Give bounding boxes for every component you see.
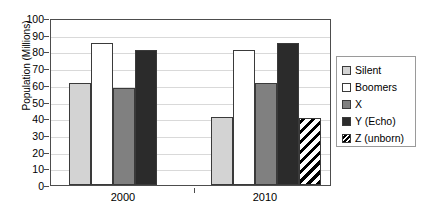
- bar-silent-2000: [69, 83, 91, 185]
- legend-label: Y (Echo): [355, 116, 396, 127]
- y-axis-tick-mark: [44, 136, 49, 137]
- bar-boomers-2000: [91, 43, 113, 185]
- y-axis-tick-label: 40: [4, 114, 44, 124]
- legend-label: Z (unborn): [355, 133, 404, 144]
- legend-item[interactable]: Silent: [342, 62, 415, 79]
- y-axis-tick-mark: [44, 52, 49, 53]
- gridline: [51, 37, 330, 38]
- bar-y-echo-2000: [135, 50, 157, 185]
- legend-swatch-icon: [342, 66, 351, 75]
- y-axis-tick-label: 60: [4, 81, 44, 91]
- y-axis-tick-label: 100: [4, 14, 44, 24]
- x-axis-separator-tick: [194, 188, 195, 193]
- y-axis-tick-mark: [44, 169, 49, 170]
- y-axis-tick-mark: [44, 69, 49, 70]
- legend-swatch-icon: [342, 100, 351, 109]
- y-axis-tick-mark: [44, 19, 49, 20]
- bar-silent-2010: [211, 117, 233, 185]
- y-axis-tick-label: 50: [4, 98, 44, 108]
- x-axis-tick-label: 2010: [235, 191, 295, 203]
- bar-y-echo-2010: [277, 43, 299, 185]
- y-axis-tick-labels: 1009080706050403020100: [0, 0, 44, 212]
- y-axis-tick-mark: [44, 86, 49, 87]
- plot-area: [50, 19, 331, 186]
- bar-x-2010: [255, 83, 277, 185]
- y-axis-tick-label: 10: [4, 164, 44, 174]
- legend-item[interactable]: X: [342, 96, 415, 113]
- y-axis-tick-label: 20: [4, 148, 44, 158]
- y-axis-tick-mark: [44, 103, 49, 104]
- legend: SilentBoomersXY (Echo)Z (unborn): [336, 56, 416, 147]
- y-axis-tick-label: 70: [4, 64, 44, 74]
- y-axis-tick-mark: [44, 153, 49, 154]
- y-axis-tick-mark: [44, 36, 49, 37]
- legend-label: X: [355, 99, 362, 110]
- legend-swatch-icon: [342, 83, 351, 92]
- y-axis-tick-mark: [44, 186, 49, 187]
- legend-item[interactable]: Boomers: [342, 79, 415, 96]
- y-axis-tick-label: 0: [4, 181, 44, 191]
- legend-item[interactable]: Y (Echo): [342, 113, 415, 130]
- legend-swatch-icon: [342, 134, 351, 143]
- legend-item[interactable]: Z (unborn): [342, 130, 415, 147]
- y-axis-tick-mark: [44, 119, 49, 120]
- legend-label: Silent: [355, 65, 381, 76]
- bar-chart: Population (Millions) 100908070605040302…: [0, 0, 422, 212]
- y-axis-tick-label: 90: [4, 31, 44, 41]
- bar-z-unborn-2010: [299, 118, 321, 185]
- bar-boomers-2010: [233, 50, 255, 185]
- x-axis-tick-labels: 20002010: [50, 188, 331, 208]
- y-axis-tick-label: 80: [4, 47, 44, 57]
- y-axis-tick-label: 30: [4, 131, 44, 141]
- x-axis-tick-label: 2000: [93, 191, 153, 203]
- legend-label: Boomers: [355, 82, 397, 93]
- bar-x-2000: [113, 88, 135, 185]
- legend-swatch-icon: [342, 117, 351, 126]
